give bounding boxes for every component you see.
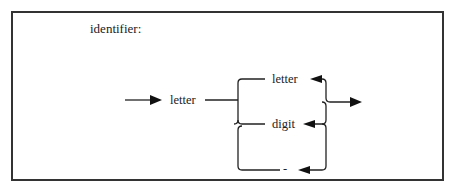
entry-arrow-icon	[150, 95, 162, 105]
loop-node-letter: letter	[272, 72, 298, 86]
entry-node-letter: letter	[170, 93, 196, 107]
exit-arrow-icon	[350, 97, 362, 107]
loop-node-dash: -	[283, 162, 287, 176]
syntax-diagram-lines	[0, 0, 456, 192]
loop-node-digit: digit	[272, 117, 295, 131]
